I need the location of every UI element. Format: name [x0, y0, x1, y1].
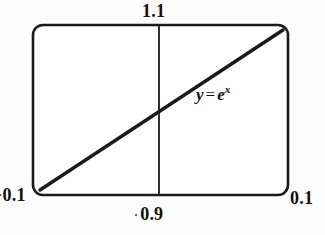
- axis-label-bottom: ·0.9: [134, 205, 163, 223]
- axis-label-bottom-value: 0.9: [140, 204, 163, 224]
- equation-variable: y: [196, 85, 204, 104]
- curve-equation-label: y=ex: [196, 86, 230, 105]
- plot-svg: [0, 0, 325, 235]
- equation-equals-sign: =: [204, 85, 218, 104]
- axis-label-left: ·0.1: [0, 186, 26, 204]
- figure-container: 1.1 ·0.1 0.1 ·0.9 y=ex: [0, 0, 325, 235]
- axis-label-top: 1.1: [142, 2, 165, 20]
- axis-label-left-value: 0.1: [3, 185, 26, 205]
- axis-label-right: 0.1: [290, 189, 313, 207]
- equation-base: e: [217, 85, 225, 104]
- equation-exponent: x: [225, 83, 231, 95]
